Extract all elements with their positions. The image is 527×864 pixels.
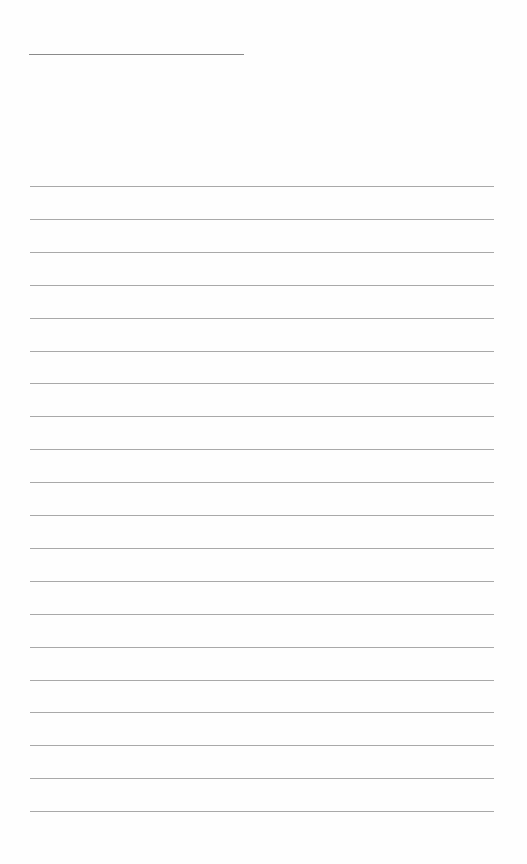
ruled-line bbox=[30, 449, 494, 450]
ruled-line bbox=[30, 285, 494, 286]
ruled-line bbox=[30, 647, 494, 648]
ruled-line bbox=[30, 745, 494, 746]
ruled-line bbox=[30, 614, 494, 615]
name-line bbox=[29, 54, 244, 55]
ruled-line bbox=[30, 186, 494, 187]
ruled-line bbox=[30, 515, 494, 516]
ruled-line bbox=[30, 548, 494, 549]
ruled-line bbox=[30, 416, 494, 417]
ruled-line bbox=[30, 811, 494, 812]
ruled-line bbox=[30, 383, 494, 384]
ruled-line bbox=[30, 351, 494, 352]
ruled-line bbox=[30, 482, 494, 483]
ruled-line bbox=[30, 219, 494, 220]
ruled-line bbox=[30, 778, 494, 779]
ruled-line bbox=[30, 712, 494, 713]
lined-page bbox=[0, 0, 527, 864]
ruled-line bbox=[30, 252, 494, 253]
ruled-line bbox=[30, 318, 494, 319]
ruled-line bbox=[30, 581, 494, 582]
ruled-line bbox=[30, 680, 494, 681]
